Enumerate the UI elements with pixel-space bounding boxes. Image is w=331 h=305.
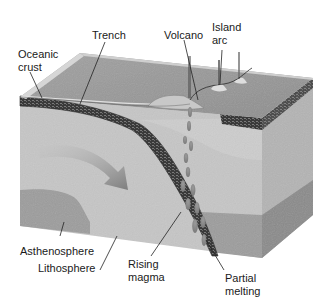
label-asthenosphere: Asthenosphere: [20, 245, 94, 258]
label-partial-melting: Partial melting: [225, 272, 260, 298]
label-volcano: Volcano: [164, 29, 203, 42]
label-rising-magma: Rising magma: [128, 258, 165, 284]
subduction-diagram: Oceanic crust Trench Volcano Island arc …: [0, 0, 331, 305]
label-lithosphere: Lithosphere: [38, 262, 96, 275]
label-oceanic-crust: Oceanic crust: [18, 48, 58, 74]
block-diagram: [0, 0, 331, 305]
label-trench: Trench: [92, 29, 126, 42]
label-island-arc: Island arc: [212, 21, 241, 47]
